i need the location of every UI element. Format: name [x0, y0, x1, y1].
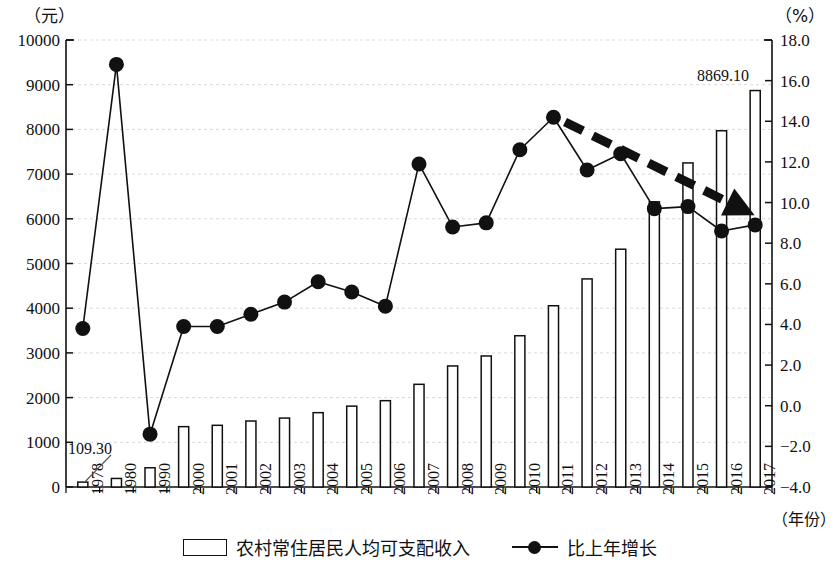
- line-dot-swatch-icon: [512, 540, 558, 554]
- bar: [448, 366, 458, 487]
- line-marker: [714, 223, 729, 238]
- bar: [380, 401, 390, 487]
- line-marker: [680, 199, 695, 214]
- bar: [717, 131, 727, 487]
- line-marker: [445, 219, 460, 234]
- bar: [212, 425, 222, 487]
- bar: [145, 468, 155, 487]
- line-marker: [143, 427, 158, 442]
- bar: [582, 279, 592, 487]
- line-marker: [75, 321, 90, 336]
- chart-legend: 农村常住居民人均可支配收入 比上年增长: [0, 530, 839, 564]
- bar: [414, 384, 424, 487]
- bar: [279, 418, 289, 487]
- line-marker: [344, 284, 359, 299]
- line-marker: [243, 307, 258, 322]
- chart-container: （元） （%） （年份） 010002000300040005000600070…: [0, 0, 839, 566]
- line-marker: [210, 319, 225, 334]
- line-marker: [277, 295, 292, 310]
- bar: [111, 478, 121, 487]
- legend-label-bar: 农村常住居民人均可支配收入: [236, 534, 470, 560]
- bar: [750, 91, 760, 487]
- bar: [347, 406, 357, 487]
- line-marker: [412, 156, 427, 171]
- plot-area: [0, 0, 839, 566]
- bar-swatch-icon: [183, 539, 227, 556]
- bar: [649, 202, 659, 487]
- line-marker: [479, 215, 494, 230]
- legend-label-line: 比上年增长: [567, 534, 657, 560]
- line-marker: [176, 319, 191, 334]
- last-bar-value-label: 8869.10: [697, 68, 749, 84]
- line-marker: [311, 274, 326, 289]
- first-bar-value-label: 109.30: [68, 441, 112, 457]
- legend-item-bar[interactable]: 农村常住居民人均可支配收入: [183, 534, 470, 560]
- bar: [515, 336, 525, 487]
- line-marker: [378, 299, 393, 314]
- value-label-leader-line: [85, 455, 111, 482]
- bar: [179, 427, 189, 487]
- line-marker: [748, 217, 763, 232]
- bar: [313, 413, 323, 487]
- legend-item-line[interactable]: 比上年增长: [512, 534, 657, 560]
- line-marker: [109, 57, 124, 72]
- line-marker: [647, 201, 662, 216]
- line-marker: [512, 142, 527, 157]
- bar: [548, 306, 558, 487]
- bar: [481, 356, 491, 487]
- line-marker: [580, 163, 595, 178]
- line-marker: [546, 110, 561, 125]
- bar: [78, 482, 88, 487]
- bar: [246, 421, 256, 487]
- bar: [616, 249, 626, 487]
